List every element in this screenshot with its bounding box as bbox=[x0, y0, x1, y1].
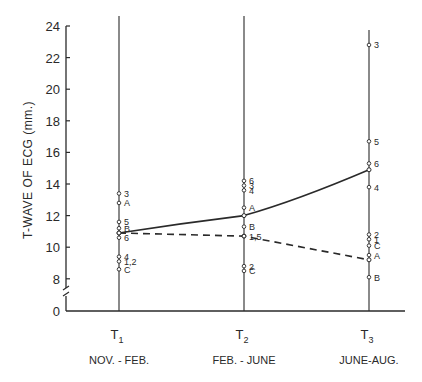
axes: 081012141618202224 bbox=[46, 19, 405, 319]
y-tick-label: 18 bbox=[46, 114, 60, 129]
y-tick-label: 0 bbox=[53, 304, 60, 319]
subject-point bbox=[367, 185, 371, 189]
subject-point bbox=[367, 140, 371, 144]
x-tick-label-T2: T2 bbox=[236, 327, 249, 345]
subject-point bbox=[117, 220, 121, 224]
subject-point bbox=[242, 225, 246, 229]
x-tick-label-T1: T1 bbox=[111, 327, 124, 345]
subject-label: A bbox=[374, 251, 380, 261]
y-tick-label: 10 bbox=[46, 240, 60, 255]
subject-label: 6 bbox=[374, 159, 379, 169]
y-tick-label: 8 bbox=[53, 272, 60, 287]
y-tick-label: 14 bbox=[46, 177, 60, 192]
mean-point bbox=[117, 231, 121, 235]
subject-label: A bbox=[249, 203, 255, 213]
subject-point bbox=[367, 244, 371, 248]
y-tick-label: 24 bbox=[46, 19, 60, 34]
period-label: FEB. - JUNE bbox=[213, 354, 276, 366]
period-label: NOV. - FEB. bbox=[89, 354, 149, 366]
subject-point bbox=[367, 253, 371, 257]
y-tick-label: 16 bbox=[46, 145, 60, 160]
axis-break-icon bbox=[63, 286, 69, 296]
data-points: 3A5B641,2C634AB1,52C356421CAB bbox=[117, 40, 381, 282]
subject-point bbox=[117, 192, 121, 196]
period-label: JUNE-AUG. bbox=[339, 354, 398, 366]
subject-point bbox=[117, 201, 121, 205]
y-axis-title: T-WAVE OF ECG (mm.) bbox=[21, 101, 35, 239]
x-axis-labels: T1NOV. - FEB.T2FEB. - JUNET3JUNE-AUG. bbox=[89, 327, 399, 366]
mean-point bbox=[242, 214, 246, 218]
subject-point bbox=[117, 268, 121, 272]
subject-label: 4 bbox=[374, 183, 379, 193]
subject-point bbox=[367, 275, 371, 279]
subject-point bbox=[367, 162, 371, 166]
subject-label: 3 bbox=[374, 40, 379, 50]
subject-point bbox=[242, 189, 246, 193]
subject-point bbox=[242, 179, 246, 183]
subject-label: 1,5 bbox=[249, 232, 262, 242]
subject-label: C bbox=[249, 266, 256, 276]
subject-label: B bbox=[374, 273, 380, 283]
subject-point bbox=[117, 226, 121, 230]
subject-point bbox=[117, 236, 121, 240]
subject-point bbox=[367, 238, 371, 242]
subject-point bbox=[367, 233, 371, 237]
y-tick-label: 12 bbox=[46, 209, 60, 224]
subject-point bbox=[242, 264, 246, 268]
x-tick-label-T3: T3 bbox=[361, 327, 374, 345]
subject-point bbox=[242, 206, 246, 210]
subject-label: A bbox=[124, 198, 130, 208]
subject-point bbox=[242, 184, 246, 188]
mean-point bbox=[367, 258, 371, 262]
subject-label: C bbox=[124, 265, 131, 275]
subject-point bbox=[117, 255, 121, 259]
subject-label: 5 bbox=[374, 137, 379, 147]
subject-point bbox=[367, 43, 371, 47]
y-tick-label: 22 bbox=[46, 51, 60, 66]
subject-point bbox=[117, 260, 121, 264]
subject-label: 6 bbox=[124, 233, 129, 243]
chart: T-WAVE OF ECG (mm.) 081012141618202224 3… bbox=[0, 0, 422, 382]
y-tick-label: 20 bbox=[46, 82, 60, 97]
subject-point bbox=[242, 234, 246, 238]
subject-point bbox=[242, 269, 246, 273]
subject-label: 4 bbox=[249, 186, 254, 196]
mean-point bbox=[367, 168, 371, 172]
